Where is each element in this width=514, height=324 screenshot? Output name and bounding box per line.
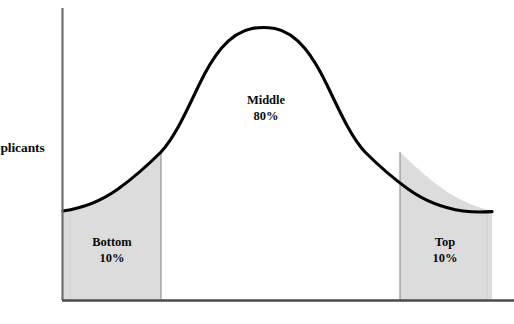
bottom-decile-label: Bottom 10% — [70, 235, 154, 266]
middle-band-percent: 80% — [218, 109, 314, 125]
distribution-chart — [0, 0, 514, 324]
bottom-decile-name: Bottom — [70, 235, 154, 251]
top-decile-percent: 10% — [410, 251, 480, 267]
middle-band-name: Middle — [218, 93, 314, 109]
y-axis-title: pplicants — [0, 140, 45, 156]
bottom-decile-percent: 10% — [70, 251, 154, 267]
top-decile-label: Top 10% — [410, 235, 480, 266]
middle-band-label: Middle 80% — [218, 93, 314, 124]
top-decile-name: Top — [410, 235, 480, 251]
bottom-decile-shaded-region — [63, 152, 161, 300]
top-decile-shaded-region — [400, 152, 492, 300]
chart-figure: pplicants Bottom 10% Middle 80% Top 10% — [0, 0, 514, 324]
